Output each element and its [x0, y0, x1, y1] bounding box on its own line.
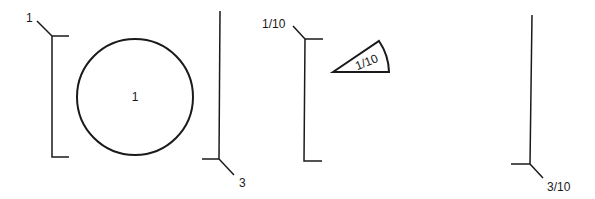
multiplier-label: 3	[239, 176, 246, 190]
right-bracket	[202, 11, 234, 175]
circle-label: 1	[132, 90, 139, 104]
right-bracket	[511, 15, 543, 178]
whole-circle-group: 1 1 3	[26, 11, 246, 190]
multiplier-label: 3/10	[547, 180, 571, 194]
fraction-diagram: 1 1 3 1/10 1/10 3/10	[0, 0, 595, 199]
left-bracket	[293, 26, 323, 161]
wedge-label: 1/10	[353, 51, 380, 73]
left-bracket	[37, 21, 69, 157]
bracket-label: 1/10	[262, 17, 286, 31]
tenth-wedge-group: 1/10 1/10 3/10	[262, 15, 571, 194]
bracket-label: 1	[26, 11, 33, 25]
